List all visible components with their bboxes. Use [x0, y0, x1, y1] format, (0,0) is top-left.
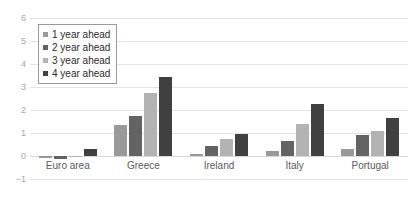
bar-slot [129, 18, 142, 179]
bar [69, 156, 82, 157]
x-axis-category-label: Greece [106, 160, 182, 172]
bar [54, 156, 67, 159]
y-axis-tick-label: 0 [4, 152, 26, 161]
bar-chart: 6543210−1 Euro areaGreeceIrelandItalyPor… [0, 0, 415, 198]
legend-swatch-icon [43, 32, 48, 37]
bar-slot [159, 18, 172, 179]
bar [205, 146, 218, 156]
bar-slot [296, 18, 309, 179]
bar-slot [205, 18, 218, 179]
bars [332, 18, 408, 179]
legend-swatch-icon [43, 58, 48, 63]
legend-item: 1 year ahead [43, 28, 110, 41]
bars [181, 18, 257, 179]
bar-slot [144, 18, 157, 179]
bar [220, 139, 233, 156]
y-axis: 6543210−1 [0, 18, 26, 179]
bar [386, 118, 399, 156]
legend-swatch-icon [43, 71, 48, 76]
bar-group: Ireland [181, 18, 257, 179]
bar [281, 141, 294, 156]
bar [371, 131, 384, 156]
legend-label: 3 year ahead [52, 55, 110, 66]
bar [84, 149, 97, 156]
legend-label: 1 year ahead [52, 29, 110, 40]
bar [190, 154, 203, 156]
bar-group: Italy [257, 18, 333, 179]
bar [129, 116, 142, 156]
bar-slot [281, 18, 294, 179]
bars [257, 18, 333, 179]
legend-item: 2 year ahead [43, 41, 110, 54]
bar [356, 135, 369, 156]
bar-slot [190, 18, 203, 179]
legend-label: 4 year ahead [52, 68, 110, 79]
bar [296, 124, 309, 156]
y-axis-tick-label: 3 [4, 83, 26, 92]
bar [39, 156, 52, 158]
bar-slot [220, 18, 233, 179]
bar-group: Portugal [332, 18, 408, 179]
y-axis-tick-label: 2 [4, 106, 26, 115]
legend-item: 3 year ahead [43, 54, 110, 67]
legend-label: 2 year ahead [52, 42, 110, 53]
bar [341, 149, 354, 156]
y-axis-tick-label: 4 [4, 60, 26, 69]
bar-slot [386, 18, 399, 179]
bar [144, 93, 157, 156]
bar-slot [266, 18, 279, 179]
legend-item: 4 year ahead [43, 67, 110, 80]
bar [114, 125, 127, 156]
x-axis-category-label: Portugal [332, 160, 408, 172]
y-axis-tick-label: −1 [4, 175, 26, 184]
bar-slot [356, 18, 369, 179]
bar-slot [371, 18, 384, 179]
x-axis-category-label: Ireland [181, 160, 257, 172]
x-axis-category-label: Euro area [30, 160, 106, 172]
bar [266, 151, 279, 156]
bar-slot [235, 18, 248, 179]
bar [235, 134, 248, 156]
bar-slot [311, 18, 324, 179]
legend-swatch-icon [43, 45, 48, 50]
y-axis-tick-label: 1 [4, 129, 26, 138]
x-axis-category-label: Italy [257, 160, 333, 172]
chart-legend: 1 year ahead2 year ahead3 year ahead4 ye… [38, 24, 117, 84]
y-axis-tick-label: 6 [4, 14, 26, 23]
y-axis-tick-label: 5 [4, 37, 26, 46]
bar [311, 104, 324, 156]
gridline [30, 179, 408, 180]
bar-slot [341, 18, 354, 179]
bar [159, 77, 172, 156]
